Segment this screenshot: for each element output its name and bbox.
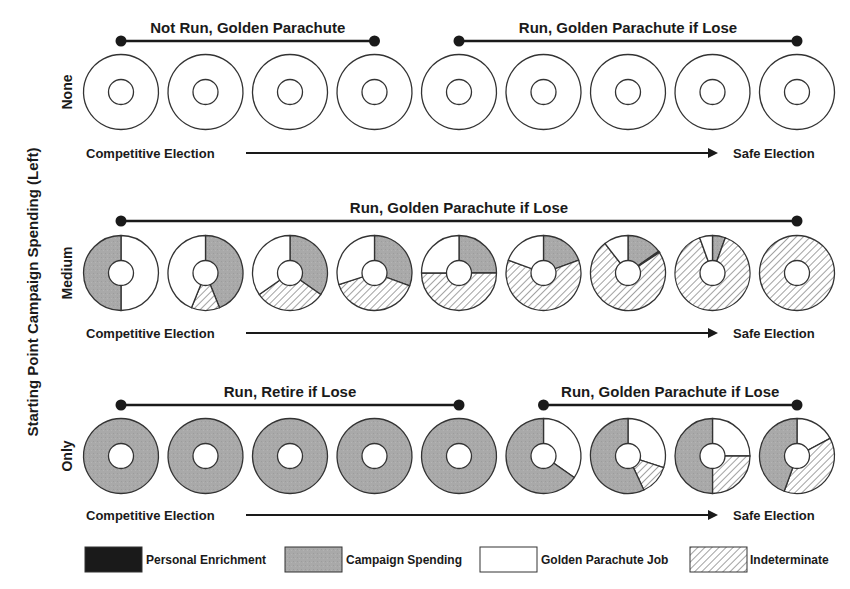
- legend-swatch-campaign-spending: [285, 547, 342, 572]
- row-none: Not Run, Golden ParachuteRun, Golden Par…: [83, 19, 834, 130]
- x-axis-right-label: Safe Election: [733, 326, 815, 341]
- donut-hole: [785, 444, 810, 469]
- donut-hole: [193, 444, 218, 469]
- row-only: Run, Retire if LoseRun, Golden Parachute…: [83, 383, 834, 494]
- legend-label-campaign-spending: Campaign Spending: [346, 553, 462, 567]
- donut-hole: [109, 261, 134, 286]
- row-medium: Run, Golden Parachute if Lose: [84, 199, 835, 311]
- x-axis-left-label: Competitive Election: [86, 326, 215, 341]
- x-axis-left-label: Competitive Election: [86, 508, 215, 523]
- bracket-label: Run, Golden Parachute if Lose: [561, 383, 779, 400]
- donut-hole: [193, 80, 218, 105]
- donut-chart: [168, 236, 243, 311]
- bracket-endpoint-dot: [454, 400, 465, 411]
- x-axis-right-label: Safe Election: [733, 146, 815, 161]
- donut-hole: [531, 444, 556, 469]
- strategy-bracket: Not Run, Golden Parachute: [116, 19, 381, 47]
- donut-chart: [168, 419, 243, 494]
- donut-hole: [700, 444, 725, 469]
- donut-hole: [785, 261, 810, 286]
- bracket-endpoint-dot: [792, 216, 803, 227]
- bracket-label: Run, Golden Parachute if Lose: [350, 199, 568, 216]
- donut-chart: [590, 55, 665, 130]
- donut-hole: [193, 261, 218, 286]
- donut-hole: [700, 261, 725, 286]
- donut-chart: [83, 55, 158, 130]
- legend-swatch-golden-parachute-job: [480, 547, 537, 572]
- x-axis-row-only: Competitive Election Safe Election: [86, 508, 815, 523]
- donut-chart: [168, 55, 243, 130]
- donut-figure: Starting Point Campaign Spending (Left) …: [0, 0, 850, 589]
- donut-chart: [83, 419, 158, 494]
- donut-hole: [700, 80, 725, 105]
- y-axis-title: Starting Point Campaign Spending (Left): [24, 147, 41, 436]
- donut-chart: [337, 419, 412, 494]
- donut-hole: [531, 80, 556, 105]
- donut-chart: [675, 236, 750, 311]
- x-axis-row-none: Competitive Election Safe Election: [86, 146, 815, 161]
- donut-hole: [447, 261, 472, 286]
- strategy-bracket: Run, Retire if Lose: [116, 383, 465, 411]
- bracket-endpoint-dot: [116, 36, 127, 47]
- donut-hole: [362, 80, 387, 105]
- donut-chart: [84, 236, 159, 311]
- donut-chart: [591, 419, 666, 494]
- donut-chart: [253, 236, 328, 311]
- row-label-only: Only: [59, 440, 75, 471]
- bracket-endpoint-dot: [116, 400, 127, 411]
- donut-hole: [109, 80, 134, 105]
- rows-layer: Not Run, Golden ParachuteRun, Golden Par…: [83, 19, 834, 494]
- donut-chart: [506, 236, 581, 311]
- donut-chart: [422, 236, 497, 311]
- x-axis-left-label: Competitive Election: [86, 146, 215, 161]
- legend-label-personal-enrichment: Personal Enrichment: [146, 553, 266, 567]
- bracket-endpoint-dot: [792, 36, 803, 47]
- donut-chart: [421, 419, 496, 494]
- donut-hole: [278, 444, 303, 469]
- strategy-bracket: Run, Golden Parachute if Lose: [116, 199, 803, 227]
- donut-chart: [337, 236, 412, 311]
- strategy-bracket: Run, Golden Parachute if Lose: [538, 383, 803, 411]
- donut-chart: [252, 419, 327, 494]
- donut-hole: [109, 444, 134, 469]
- row-label-none: None: [59, 74, 75, 109]
- x-axis-right-label: Safe Election: [733, 508, 815, 523]
- bracket-endpoint-dot: [369, 36, 380, 47]
- donut-hole: [278, 80, 303, 105]
- donut-chart: [337, 55, 412, 130]
- donut-hole: [785, 80, 810, 105]
- bracket-endpoint-dot: [116, 216, 127, 227]
- bracket-endpoint-dot: [792, 400, 803, 411]
- bracket-label: Not Run, Golden Parachute: [150, 19, 345, 36]
- donut-chart: [506, 419, 581, 494]
- bracket-endpoint-dot: [454, 36, 465, 47]
- donut-chart: [759, 55, 834, 130]
- donut-hole: [362, 261, 387, 286]
- donut-hole: [616, 444, 641, 469]
- bracket-endpoint-dot: [538, 400, 549, 411]
- legend-swatch-personal-enrichment: [85, 547, 142, 572]
- donut-chart: [421, 55, 496, 130]
- row-label-medium: Medium: [59, 247, 75, 300]
- strategy-bracket: Run, Golden Parachute if Lose: [454, 19, 803, 47]
- donut-chart: [759, 236, 834, 311]
- donut-hole: [616, 261, 641, 286]
- donut-hole: [447, 80, 472, 105]
- legend: Personal Enrichment Campaign Spending Go…: [85, 547, 829, 572]
- x-axis-row-medium: Competitive Election Safe Election: [86, 326, 815, 341]
- donut-chart: [675, 419, 750, 494]
- bracket-label: Run, Retire if Lose: [224, 383, 357, 400]
- donut-hole: [362, 444, 387, 469]
- bracket-label: Run, Golden Parachute if Lose: [519, 19, 737, 36]
- donut-chart: [252, 55, 327, 130]
- donut-hole: [531, 261, 556, 286]
- legend-swatch-indeterminate: [690, 547, 747, 572]
- donut-hole: [447, 444, 472, 469]
- legend-label-indeterminate: Indeterminate: [750, 553, 829, 567]
- donut-hole: [278, 261, 303, 286]
- legend-label-golden-parachute-job: Golden Parachute Job: [541, 553, 668, 567]
- donut-chart: [506, 55, 581, 130]
- donut-chart: [590, 236, 665, 311]
- donut-chart: [675, 55, 750, 130]
- donut-hole: [616, 80, 641, 105]
